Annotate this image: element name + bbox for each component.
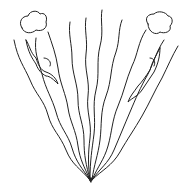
left-cloud: [20, 11, 46, 33]
line-drawing: [0, 0, 185, 193]
wavy-strands: [14, 10, 178, 180]
convergence-point: [89, 178, 92, 182]
right-cloud: [146, 12, 172, 34]
